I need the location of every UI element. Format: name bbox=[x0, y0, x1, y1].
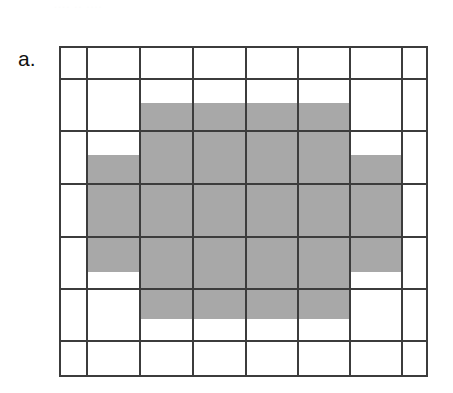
clipped-header-text: .... .. .... bbox=[54, 0, 194, 9]
panel-label: a. bbox=[18, 46, 52, 72]
grid-outer-border bbox=[59, 46, 428, 377]
figure-root: .... .. .... a. bbox=[0, 0, 453, 393]
grid-diagram bbox=[59, 46, 428, 377]
